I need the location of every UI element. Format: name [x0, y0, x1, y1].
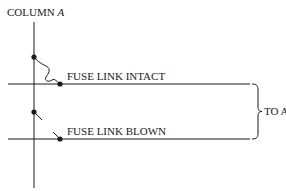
row-label-intact: FUSE LINK INTACT — [67, 70, 165, 82]
column-label: COLUMN A — [7, 6, 64, 18]
junction-dot — [31, 54, 36, 59]
junction-dot — [57, 81, 62, 86]
fuse-link-diagram: COLUMN A FUSE LINK INTACT FUSE LINK BLOW… — [0, 0, 286, 191]
output-label: TO AND GATES — [264, 105, 286, 117]
junction-dot — [31, 109, 36, 114]
junction-dot — [57, 136, 62, 141]
row-label-blown: FUSE LINK BLOWN — [67, 125, 166, 137]
fuse-link-intact-icon — [34, 57, 60, 84]
brace-icon — [252, 84, 262, 139]
